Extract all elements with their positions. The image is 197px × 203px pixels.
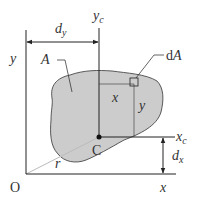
dx-label: dx xyxy=(172,148,184,165)
x-axis-label: x xyxy=(159,180,167,195)
element-leader-line xyxy=(136,55,164,78)
centroid-label: C xyxy=(92,143,101,158)
xc-axis-label: xc xyxy=(175,129,187,146)
x-offset-label: x xyxy=(111,90,119,105)
origin-label: O xyxy=(10,180,20,195)
y-axis-label: y xyxy=(8,51,17,66)
area-label: A xyxy=(40,52,50,67)
element-label: dA xyxy=(166,48,182,63)
y-offset-label: y xyxy=(137,98,146,113)
dy-label: dy xyxy=(55,21,67,38)
yc-axis-label: yc xyxy=(91,8,104,25)
parallel-axis-diagram: y x O yc xc dy dx A C dA x y r xyxy=(0,0,197,203)
radius-label: r xyxy=(55,156,61,171)
centroid-dot xyxy=(97,135,102,140)
